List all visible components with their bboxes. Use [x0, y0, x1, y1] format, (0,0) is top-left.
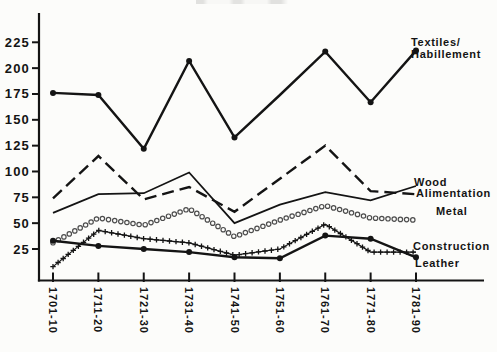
plus-marker — [262, 248, 267, 253]
x-axis-tick-label: 1781-90 — [410, 287, 422, 334]
plus-marker — [205, 245, 210, 250]
plus-marker — [154, 237, 159, 242]
metal-circle-marker — [149, 220, 153, 224]
metal-circle-marker — [195, 211, 199, 215]
metal-circle-marker — [308, 208, 312, 212]
plus-marker — [275, 247, 280, 252]
metal-circle-marker — [373, 216, 377, 220]
series-alimentation — [53, 146, 416, 212]
metal-circle-marker — [221, 228, 225, 232]
plus-marker — [293, 238, 298, 243]
metal-circle-marker — [398, 217, 402, 221]
plus-marker — [186, 240, 191, 245]
plus-marker — [96, 228, 101, 233]
plus-marker — [371, 249, 376, 254]
y-axis-tick-label: 100 — [5, 164, 30, 179]
metal-circle-marker — [89, 220, 93, 224]
metal-circle-marker — [404, 217, 408, 221]
plus-marker — [321, 222, 326, 227]
plus-marker — [173, 239, 178, 244]
metal-circle-marker — [255, 226, 259, 230]
metal-circle-marker — [143, 223, 147, 227]
plus-marker — [281, 244, 286, 249]
plus-marker — [109, 230, 114, 235]
filled-dot-marker — [95, 92, 101, 98]
series-label-leather: Leather — [415, 258, 460, 270]
metal-circle-marker — [67, 232, 71, 236]
plus-marker — [141, 236, 146, 241]
series-textiles-habillement — [50, 48, 419, 152]
filled-dot-marker — [141, 246, 147, 252]
plus-marker — [269, 248, 274, 253]
y-axis-tick-label: 125 — [5, 138, 30, 153]
metal-circle-marker — [325, 204, 329, 208]
metal-circle-marker — [392, 217, 396, 221]
metal-circle-marker — [131, 221, 135, 225]
filled-dot-marker — [232, 254, 238, 260]
metal-circle-marker — [184, 208, 188, 212]
plus-marker — [360, 244, 365, 249]
filled-dot-marker — [322, 233, 328, 239]
x-axis-tick-label: 1761-70 — [319, 287, 331, 334]
metal-circle-marker — [62, 235, 66, 239]
series-label-textiles-line1: Textiles/ — [411, 37, 481, 49]
metal-circle-marker — [296, 212, 300, 216]
filled-dot-marker — [50, 90, 56, 96]
filled-dot-marker — [277, 255, 283, 261]
plus-marker — [180, 240, 185, 245]
metal-circle-marker — [355, 212, 359, 216]
metal-circle-marker — [411, 218, 415, 222]
metal-circle-marker — [290, 214, 294, 218]
metal-circle-marker — [320, 205, 324, 209]
series-line — [53, 51, 416, 149]
metal-circle-marker — [78, 226, 82, 230]
plus-marker — [122, 232, 127, 237]
plus-marker — [249, 250, 254, 255]
plus-marker — [256, 249, 261, 254]
x-axis-tick-label: 1721-30 — [138, 287, 150, 334]
x-axis-ticks: 1701-101711-201721-301731-401741-501751-… — [47, 273, 422, 334]
metal-circle-marker — [119, 219, 123, 223]
filled-dot-marker — [50, 238, 56, 244]
filled-dot-marker — [186, 58, 192, 64]
metal-circle-marker — [249, 228, 253, 232]
metal-circle-marker — [161, 216, 165, 220]
metal-circle-marker — [302, 210, 306, 214]
series-label-metal: Metal — [436, 206, 468, 218]
y-axis-tick-label: 25 — [13, 242, 30, 257]
metal-circle-marker — [267, 222, 271, 226]
x-axis-tick-label: 1741-50 — [229, 287, 241, 334]
metal-circle-marker — [367, 216, 371, 220]
metal-circle-marker — [314, 206, 318, 210]
metal-circle-marker — [361, 214, 365, 218]
plus-marker — [224, 250, 229, 255]
metal-circle-marker — [94, 217, 98, 221]
metal-circle-marker — [331, 206, 335, 210]
series-line — [53, 146, 416, 212]
metal-circle-marker — [380, 216, 384, 220]
y-axis-tick-label: 175 — [5, 86, 30, 101]
metal-circle-marker — [278, 218, 282, 222]
metal-circle-marker — [73, 229, 77, 233]
y-axis-tick-label: 50 — [13, 216, 30, 231]
y-axis-tick-label: 75 — [13, 190, 30, 205]
x-axis-tick-label: 1751-60 — [274, 287, 286, 334]
plus-marker — [147, 237, 152, 242]
metal-circle-marker — [189, 208, 193, 212]
filled-dot-marker — [232, 134, 238, 140]
metal-circle-marker — [106, 217, 110, 221]
y-axis-ticks: 255075100125150175200225 — [5, 35, 39, 257]
metal-circle-marker — [216, 224, 220, 228]
metal-circle-marker — [261, 224, 265, 228]
y-axis-tick-label: 150 — [5, 112, 30, 127]
series-label-alimentation: Alimentation — [416, 188, 491, 200]
filled-dot-marker — [368, 99, 374, 105]
metal-circle-marker — [155, 218, 159, 222]
filled-dot-marker — [141, 146, 147, 152]
plus-marker — [128, 234, 133, 239]
plus-marker — [315, 226, 320, 231]
plus-marker — [378, 249, 383, 254]
metal-circle-marker — [205, 218, 209, 222]
series-label-textiles: Textiles/ Habillement — [411, 37, 481, 60]
metal-circle-marker — [113, 218, 117, 222]
